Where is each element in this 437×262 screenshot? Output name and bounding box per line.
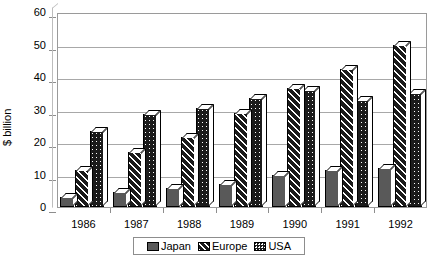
bar-japan-1989 bbox=[219, 184, 233, 207]
x-tick-label: 1988 bbox=[159, 218, 219, 230]
y-tick-label: 0 bbox=[22, 202, 46, 213]
bar-group bbox=[60, 14, 104, 207]
legend-item-japan: Japan bbox=[147, 240, 191, 252]
bar-group bbox=[166, 14, 210, 207]
bar-chart: $ billion 0102030405060 1986198719881989… bbox=[0, 0, 437, 262]
bar-side-3d bbox=[315, 86, 320, 206]
bar-side-3d bbox=[141, 148, 146, 206]
y-tick-mark bbox=[49, 212, 56, 213]
x-tick-label: 1989 bbox=[212, 218, 272, 230]
bar-group bbox=[325, 14, 369, 207]
x-tick-label: 1990 bbox=[265, 218, 325, 230]
bar-face bbox=[167, 189, 179, 207]
bar-japan-1991 bbox=[325, 170, 339, 207]
bar-side-3d bbox=[103, 127, 108, 206]
bar-group bbox=[378, 14, 422, 207]
y-tick-mark bbox=[49, 180, 56, 181]
legend-label: Europe bbox=[212, 240, 247, 252]
y-tick-label: 50 bbox=[22, 40, 46, 51]
x-tick-label: 1992 bbox=[371, 218, 431, 230]
x-tick-label: 1987 bbox=[106, 218, 166, 230]
x-tick-mark bbox=[374, 208, 375, 213]
bar-face bbox=[220, 185, 232, 206]
x-tick-label: 1991 bbox=[318, 218, 378, 230]
chart-legend: JapanEuropeUSA bbox=[133, 237, 305, 255]
bar-side-3d bbox=[406, 41, 411, 207]
y-axis-title: $ billion bbox=[1, 92, 17, 162]
x-tick-mark bbox=[216, 208, 217, 213]
bar-side-3d bbox=[300, 84, 305, 206]
bar-group bbox=[113, 14, 157, 207]
y-tick-mark bbox=[49, 50, 56, 51]
bar-side-3d bbox=[156, 110, 161, 206]
bar-face bbox=[326, 171, 338, 206]
bar-face bbox=[61, 198, 73, 206]
y-tick-mark bbox=[49, 82, 56, 83]
bar-japan-1988 bbox=[166, 188, 180, 208]
bar-side-3d bbox=[247, 109, 252, 206]
bar-side-3d bbox=[353, 65, 358, 206]
plot-area bbox=[57, 13, 427, 208]
x-tick-mark bbox=[110, 208, 111, 213]
bar-europe-1986 bbox=[75, 170, 89, 207]
bar-group bbox=[272, 14, 316, 207]
y-tick-label: 20 bbox=[22, 137, 46, 148]
bar-face bbox=[129, 153, 141, 206]
bar-side-3d bbox=[209, 104, 214, 206]
y-tick-mark bbox=[49, 147, 56, 148]
bar-side-3d bbox=[88, 166, 93, 206]
legend-item-europe: Europe bbox=[198, 240, 247, 252]
bar-group bbox=[219, 14, 263, 207]
legend-item-usa: USA bbox=[254, 240, 291, 252]
y-tick-label: 60 bbox=[22, 7, 46, 18]
bar-side-3d bbox=[421, 89, 426, 206]
bar-face bbox=[273, 176, 285, 207]
x-tick-mark bbox=[321, 208, 322, 213]
bar-japan-1987 bbox=[113, 192, 127, 207]
legend-swatch-usa bbox=[254, 242, 266, 251]
bar-side-3d bbox=[262, 94, 267, 206]
bar-japan-1986 bbox=[60, 197, 74, 207]
legend-label: USA bbox=[268, 240, 291, 252]
bar-side-3d bbox=[338, 166, 343, 206]
x-tick-mark bbox=[163, 208, 164, 213]
y-tick-label: 10 bbox=[22, 170, 46, 181]
bar-japan-1992 bbox=[378, 168, 392, 207]
y-tick-mark bbox=[49, 115, 56, 116]
x-tick-mark bbox=[268, 208, 269, 213]
legend-label: Japan bbox=[161, 240, 191, 252]
bar-face bbox=[144, 115, 156, 206]
bar-side-3d bbox=[391, 164, 396, 206]
bar-japan-1990 bbox=[272, 175, 286, 208]
bar-side-3d bbox=[285, 171, 290, 207]
y-tick-label: 40 bbox=[22, 72, 46, 83]
bar-face bbox=[379, 169, 391, 206]
legend-swatch-japan bbox=[147, 242, 159, 251]
bar-side-3d bbox=[194, 133, 199, 206]
bar-face bbox=[76, 171, 88, 206]
x-tick-label: 1986 bbox=[53, 218, 113, 230]
bar-face bbox=[91, 132, 103, 206]
bar-face bbox=[114, 193, 126, 206]
bar-side-3d bbox=[368, 96, 373, 206]
y-tick-label: 30 bbox=[22, 105, 46, 116]
legend-swatch-europe bbox=[198, 242, 210, 251]
y-tick-mark bbox=[49, 17, 56, 18]
